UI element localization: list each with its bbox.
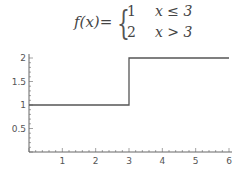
y-tick-label: 1.5 [12, 77, 26, 87]
y-tick-label: 2 [20, 53, 26, 63]
x-tick-label: 6 [226, 156, 232, 166]
x-tick-label: 2 [93, 156, 99, 166]
ticks: 1234560.511.52 [12, 53, 232, 166]
x-tick-label: 5 [193, 156, 199, 166]
axes [29, 54, 232, 152]
y-tick-label: 1 [20, 100, 26, 110]
x-tick-label: 3 [126, 156, 132, 166]
series-line [29, 58, 229, 105]
chart: 1234560.511.52 [0, 0, 243, 174]
y-tick-label: 0.5 [12, 124, 26, 134]
series [29, 58, 229, 105]
x-tick-label: 4 [159, 156, 165, 166]
x-tick-label: 1 [59, 156, 65, 166]
